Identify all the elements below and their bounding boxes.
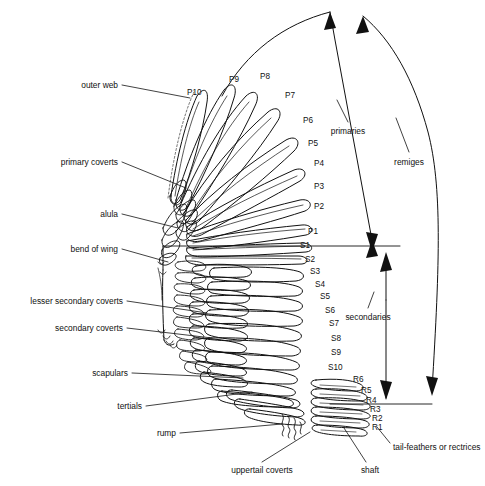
primary-feathers [168, 85, 312, 265]
label-tertials: tertials [117, 402, 142, 411]
feather-label-s10: S10 [328, 363, 343, 372]
feather-label-s7: S7 [329, 319, 339, 328]
label-secondaries: secondaries [345, 313, 390, 322]
label-scapulars: scapulars [92, 369, 128, 378]
leader-lines [122, 85, 390, 462]
feather-label-p1: P1 [308, 227, 318, 236]
body-feather-tufts [158, 262, 177, 348]
label-secondary-coverts: secondary coverts [55, 324, 123, 333]
feather-label-r5: R5 [361, 386, 371, 395]
feather-label-r3: R3 [370, 405, 380, 414]
wing-leading-edge [158, 246, 174, 345]
feather-label-s5: S5 [320, 292, 330, 301]
feather-label-p3: P3 [314, 182, 324, 191]
label-shaft: shaft [361, 466, 379, 475]
feather-label-p9: P9 [229, 75, 239, 84]
feather-label-p10: P10 [187, 88, 202, 97]
feather-label-r1: R1 [372, 423, 382, 432]
feather-label-r4: R4 [366, 396, 376, 405]
arrowhead-primaries-top [324, 12, 336, 30]
label-rump: rump [157, 429, 176, 438]
feather-label-s4: S4 [315, 280, 325, 289]
label-uppertail-coverts: uppertail coverts [231, 466, 292, 475]
feather-label-s9: S9 [331, 348, 341, 357]
label-alula: alula [100, 210, 118, 219]
feather-label-s3: S3 [310, 267, 320, 276]
label-outer-web: outer web [81, 81, 118, 90]
label-tail-feathers-or-rectrices: tail-feathers or rectrices [393, 443, 481, 452]
label-remiges: remiges [394, 158, 424, 167]
arrowhead-remiges-top [356, 16, 369, 34]
feather-label-p6: P6 [303, 116, 313, 125]
wing-topography-diagram: outer web primary coverts alula bend of … [0, 0, 485, 486]
feather-label-s8: S8 [331, 334, 341, 343]
feather-label-r6: R6 [353, 375, 363, 384]
feather-label-s1: S1 [300, 241, 310, 250]
label-primaries: primaries [331, 127, 365, 136]
feather-label-p5: P5 [308, 139, 318, 148]
feather-label-s2: S2 [305, 255, 315, 264]
label-primary-coverts: primary coverts [61, 158, 118, 167]
bracket-arc-remiges [363, 16, 438, 390]
feather-label-p7: P7 [285, 91, 295, 100]
lesser-secondary-coverts [173, 261, 211, 374]
label-lesser-secondary-coverts: lesser secondary coverts [30, 297, 123, 306]
feather-label-p2: P2 [314, 202, 324, 211]
feather-label-r2: R2 [372, 414, 382, 423]
feather-label-p4: P4 [314, 159, 324, 168]
feather-label-s6: S6 [325, 306, 335, 315]
label-bend-of-wing: bend of wing [71, 245, 119, 254]
feather-label-p8: P8 [260, 72, 270, 81]
